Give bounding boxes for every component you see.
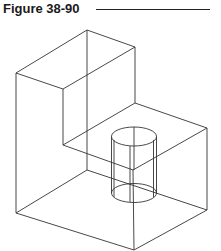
upper-block xyxy=(16,30,135,213)
lower-step xyxy=(63,103,207,250)
stepped-block-wireframe xyxy=(0,0,221,251)
